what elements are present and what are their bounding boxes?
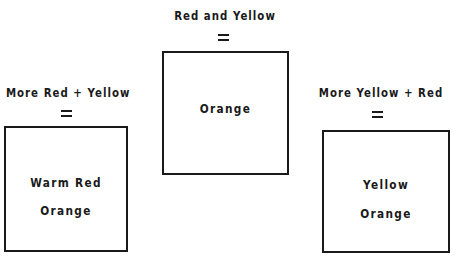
yellow-orange-result-box: Yellow Orange [322, 130, 450, 253]
orange-result-label: Orange [171, 102, 279, 116]
warm-red-orange-label-line1: Warm Red [13, 176, 119, 190]
yellow-orange-label-line1: Yellow [331, 178, 440, 192]
equals-sign-center [218, 34, 229, 41]
orange-result-box: Orange [162, 51, 289, 175]
warm-red-orange-result-box: Warm Red Orange [4, 126, 128, 252]
left-heading: More Red + Yellow [6, 86, 129, 100]
right-heading: More Yellow + Red [317, 86, 445, 100]
warm-red-orange-label-line2: Orange [13, 204, 119, 218]
yellow-orange-label-line2: Orange [331, 207, 440, 221]
equals-sign-right [372, 111, 383, 118]
equals-sign-left [61, 110, 72, 117]
center-heading: Red and Yellow [161, 9, 289, 23]
